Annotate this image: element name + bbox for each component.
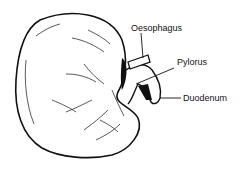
stomach-diagram xyxy=(0,0,239,171)
label-duodenum: Duodenum xyxy=(183,94,227,103)
stomach-body-outline xyxy=(16,14,140,158)
label-pylorus: Pylorus xyxy=(177,58,207,67)
pyloric-antrum-outline xyxy=(126,65,161,104)
label-oesophagus: Oesophagus xyxy=(131,24,182,33)
oesophagus-leader xyxy=(141,33,143,58)
